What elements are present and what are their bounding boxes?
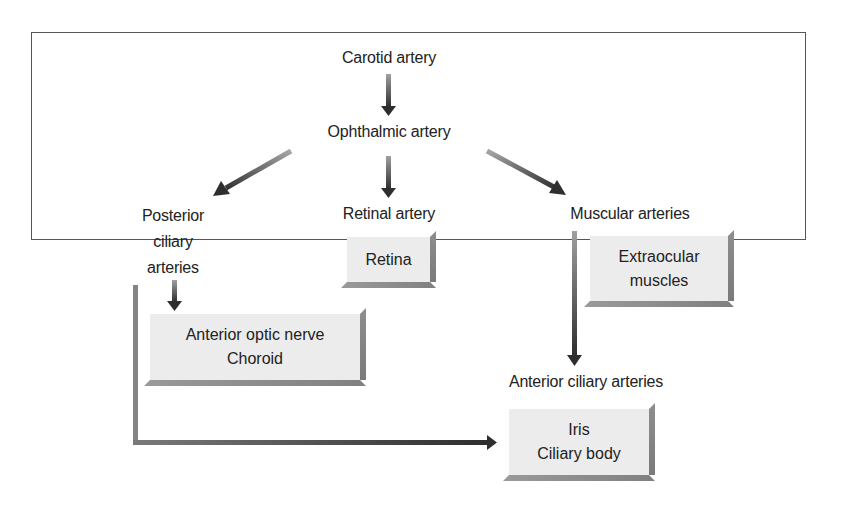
box-iris-label: Iris [568, 418, 589, 442]
node-ophthalmic-artery: Ophthalmic artery [328, 121, 451, 142]
node-anterior-ciliary-arteries: Anterior ciliary arteries [509, 371, 663, 392]
node-carotid-artery: Carotid artery [342, 47, 436, 68]
node-posterior-ciliary-line2: ciliary [142, 229, 204, 255]
arrow-ophthalmic-to-retinal [381, 156, 396, 198]
arrow-muscular-to-anterior-ciliary [567, 231, 582, 366]
box-extraocular-muscles: Extraocular muscles [590, 236, 728, 301]
arrow-ophthalmic-to-posterior-ciliary [213, 151, 291, 196]
arrow-carotid-to-ophthalmic [381, 74, 396, 116]
node-posterior-ciliary-line1: Posterior [142, 203, 204, 229]
arrow-posterior-ciliary-to-optic-choroid [167, 280, 182, 311]
box-iris-ciliary-body: Iris Ciliary body [509, 409, 649, 475]
box-extraocular-line1: Extraocular [619, 245, 700, 269]
diagram-canvas: Carotid artery Ophthalmic artery Retinal… [0, 0, 862, 519]
node-retinal-artery: Retinal artery [343, 203, 435, 224]
box-choroid-label: Choroid [227, 347, 283, 371]
node-muscular-arteries: Muscular arteries [570, 203, 689, 224]
box-retina: Retina [347, 237, 430, 282]
box-optic-nerve-label: Anterior optic nerve [186, 323, 325, 347]
box-retina-label: Retina [365, 248, 411, 272]
box-ciliary-body-label: Ciliary body [537, 442, 621, 466]
box-extraocular-line2: muscles [630, 269, 689, 293]
box-optic-nerve-choroid: Anterior optic nerve Choroid [150, 314, 360, 380]
node-posterior-ciliary-arteries: Posterior ciliary arteries [142, 203, 204, 281]
arrow-ophthalmic-to-muscular [487, 151, 566, 195]
node-posterior-ciliary-line3: arteries [142, 255, 204, 281]
